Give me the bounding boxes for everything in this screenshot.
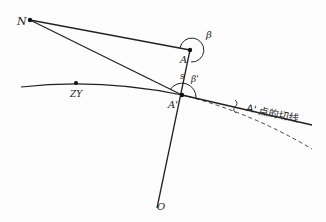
diagram-canvas: N A β s β' A' ZY O A' 点的切线	[0, 0, 326, 222]
point-A-prime	[180, 93, 184, 97]
label-s: s	[180, 71, 185, 81]
label-N: N	[16, 15, 27, 28]
curve-route	[21, 84, 182, 95]
label-ZY: ZY	[69, 89, 83, 99]
point-N	[28, 18, 32, 22]
line-A-O	[157, 50, 190, 208]
label-O: O	[157, 201, 165, 212]
label-tangent: A' 点的切线	[246, 101, 300, 124]
line-N-A	[30, 20, 190, 50]
line-N-Aprime	[30, 20, 182, 95]
geometry-diagram: N A β s β' A' ZY O A' 点的切线	[0, 0, 326, 222]
label-beta: β	[205, 29, 212, 40]
label-beta-prime: β'	[190, 74, 199, 84]
label-A: A	[179, 54, 187, 65]
label-A-prime: A'	[167, 99, 178, 110]
point-ZY	[74, 81, 78, 85]
point-A	[188, 48, 192, 52]
